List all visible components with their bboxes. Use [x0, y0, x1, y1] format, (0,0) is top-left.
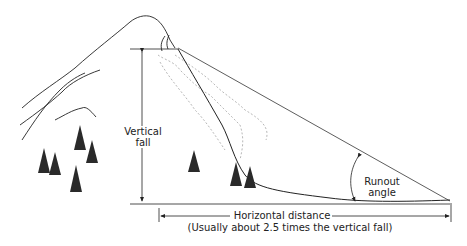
tree-icon	[74, 125, 86, 150]
runout-angle-arc	[351, 157, 358, 201]
runout-angle-label-line1: Runout	[364, 176, 400, 187]
vertical-fall-label-line1: Vertical	[123, 126, 163, 137]
tree-icon	[70, 165, 82, 192]
avalanche-runout-diagram: Vertical fall Runout angle Horizontal di…	[0, 0, 467, 246]
tree-icon	[49, 152, 61, 175]
horizontal-distance-note: (Usually about 2.5 times the vertical fa…	[170, 222, 410, 233]
tree-icon	[244, 166, 256, 188]
tree-icon	[188, 150, 200, 172]
vertical-fall-label: Vertical fall	[123, 126, 163, 148]
tree-icon	[86, 140, 98, 163]
vertical-fall-label-line2: fall	[123, 137, 163, 148]
runout-angle-label-line2: angle	[364, 187, 400, 198]
tree-icon	[38, 148, 50, 173]
runout-line	[178, 48, 450, 201]
tree-icon	[230, 162, 242, 186]
runout-angle-label: Runout angle	[364, 176, 400, 198]
mountain-outline	[20, 16, 175, 140]
horizontal-distance-label: Horizontal distance	[232, 210, 332, 221]
